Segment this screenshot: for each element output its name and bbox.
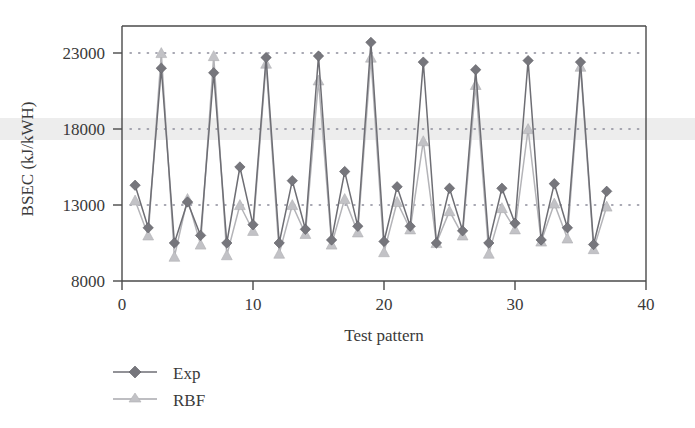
y-axis-title: BSEC (kJ/kWH) bbox=[18, 102, 37, 217]
data-point-rbf-4 bbox=[169, 251, 180, 261]
data-point-exp-27 bbox=[471, 65, 481, 75]
chart-legend: Exp RBF bbox=[113, 364, 205, 410]
data-point-rbf-7 bbox=[208, 51, 219, 61]
chart-figure: 23000 18000 13000 8000 0 10 20 30 40 Tes… bbox=[0, 0, 695, 428]
legend-item-rbf[interactable]: RBF bbox=[113, 391, 205, 410]
x-axis-ticks bbox=[122, 281, 646, 290]
data-point-rbf-15 bbox=[313, 75, 324, 85]
data-point-rbf-34 bbox=[562, 233, 573, 243]
data-point-exp-17 bbox=[340, 166, 350, 176]
legend-label-exp: Exp bbox=[173, 364, 200, 383]
series-layer bbox=[130, 37, 612, 261]
legend-item-exp[interactable]: Exp bbox=[113, 364, 200, 383]
y-tick-label-23000: 23000 bbox=[63, 44, 106, 63]
x-axis-title: Test pattern bbox=[344, 326, 424, 345]
data-point-rbf-12 bbox=[274, 248, 285, 258]
x-tick-label-20: 20 bbox=[376, 295, 393, 314]
data-point-exp-9 bbox=[235, 162, 245, 172]
data-point-exp-15 bbox=[313, 51, 323, 61]
data-point-exp-29 bbox=[497, 183, 507, 193]
data-point-rbf-27 bbox=[470, 80, 481, 90]
data-point-exp-7 bbox=[209, 68, 219, 78]
data-point-exp-21 bbox=[392, 182, 402, 192]
data-point-exp-23 bbox=[418, 57, 428, 67]
data-point-exp-31 bbox=[523, 55, 533, 65]
legend-marker-diamond-icon bbox=[129, 366, 141, 378]
series-line-exp bbox=[135, 42, 607, 244]
data-point-exp-19 bbox=[366, 37, 376, 47]
legend-marker-triangle-icon bbox=[129, 393, 141, 402]
bsec-test-pattern-line-chart: 23000 18000 13000 8000 0 10 20 30 40 Tes… bbox=[0, 0, 695, 428]
x-tick-label-30: 30 bbox=[507, 295, 524, 314]
data-point-exp-11 bbox=[261, 52, 271, 62]
data-point-exp-13 bbox=[287, 175, 297, 185]
x-tick-label-10: 10 bbox=[245, 295, 262, 314]
x-tick-label-0: 0 bbox=[118, 295, 127, 314]
series-line-rbf bbox=[135, 53, 607, 257]
data-point-exp-37 bbox=[602, 186, 612, 196]
data-point-exp-35 bbox=[575, 57, 585, 67]
y-tick-label-8000: 8000 bbox=[71, 272, 105, 291]
data-point-exp-33 bbox=[549, 179, 559, 189]
data-point-exp-1 bbox=[130, 180, 140, 190]
y-tick-label-18000: 18000 bbox=[63, 120, 106, 139]
y-axis-ticks bbox=[113, 53, 122, 281]
data-point-exp-25 bbox=[444, 183, 454, 193]
data-point-exp-34 bbox=[562, 223, 572, 233]
y-tick-label-13000: 13000 bbox=[63, 196, 106, 215]
data-point-exp-16 bbox=[326, 235, 336, 245]
data-point-exp-10 bbox=[248, 220, 258, 230]
data-point-exp-30 bbox=[510, 218, 520, 228]
data-point-exp-36 bbox=[588, 239, 598, 249]
x-tick-label-40: 40 bbox=[638, 295, 655, 314]
data-point-rbf-20 bbox=[379, 247, 390, 257]
data-point-exp-3 bbox=[156, 63, 166, 73]
legend-label-rbf: RBF bbox=[173, 391, 205, 410]
data-point-rbf-8 bbox=[221, 250, 232, 260]
data-point-rbf-28 bbox=[483, 248, 494, 258]
